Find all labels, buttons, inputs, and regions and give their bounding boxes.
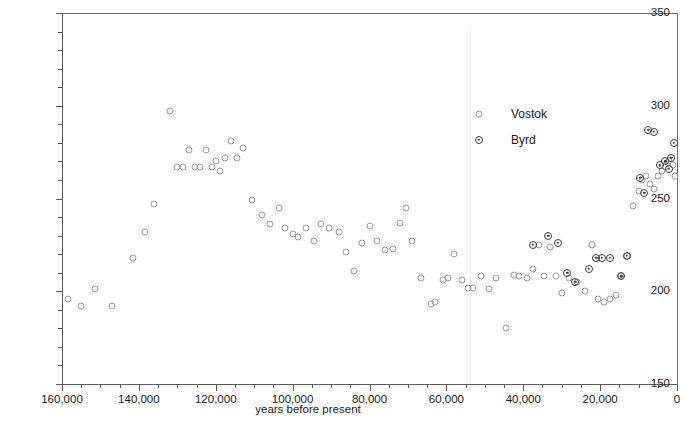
x-tick-minor [542, 384, 543, 388]
data-point-vostok [650, 186, 657, 193]
data-point-vostok [366, 223, 373, 230]
data-point-vostok [216, 167, 223, 174]
x-tick-major [370, 384, 371, 391]
y-tick-label: 300 [651, 100, 670, 112]
data-point-vostok [672, 173, 679, 180]
data-point-vostok [258, 212, 265, 219]
y-tick-minor [58, 365, 62, 366]
data-point-vostok [276, 204, 283, 211]
x-tick-minor [504, 384, 505, 388]
data-point-vostok [541, 273, 548, 280]
x-tick-minor [254, 384, 255, 388]
x-tick-major [523, 384, 524, 391]
data-point-vostok [358, 240, 365, 247]
data-point-vostok [185, 147, 192, 154]
data-point-vostok [212, 158, 219, 165]
data-point-vostok [64, 295, 71, 302]
plot-frame-right [677, 13, 678, 385]
data-point-byrd [571, 278, 579, 286]
data-point-byrd [544, 232, 552, 240]
x-tick-minor [120, 384, 121, 388]
data-point-vostok [477, 273, 484, 280]
x-tick-major [62, 384, 63, 391]
data-point-vostok [516, 273, 523, 280]
data-point-vostok [351, 267, 358, 274]
data-point-vostok [408, 238, 415, 245]
data-point-byrd [554, 239, 562, 247]
legend-marker-vostok [476, 111, 483, 118]
data-point-vostok [166, 108, 173, 115]
data-point-vostok [374, 238, 381, 245]
legend-label: Byrd [511, 133, 536, 147]
data-point-vostok [78, 303, 85, 310]
x-tick-minor [562, 384, 563, 388]
data-point-byrd [529, 241, 537, 249]
data-point-byrd [563, 269, 571, 277]
legend-marker-byrd [475, 136, 483, 144]
x-axis-title: years before present [0, 403, 616, 415]
data-point-vostok [266, 221, 273, 228]
x-tick-minor [177, 384, 178, 388]
scan-artifact-line [470, 27, 471, 387]
data-point-vostok [295, 234, 302, 241]
data-point-vostok [458, 277, 465, 284]
x-tick-minor [485, 384, 486, 388]
data-point-vostok [529, 265, 536, 272]
data-point-vostok [502, 325, 509, 332]
data-point-vostok [249, 197, 256, 204]
x-tick-minor [235, 384, 236, 388]
data-point-vostok [418, 275, 425, 282]
data-point-vostok [281, 225, 288, 232]
y-tick-minor [58, 69, 62, 70]
plot-area: 150200250300350 160,000140,000120,000100… [62, 13, 678, 385]
y-tick-minor [58, 236, 62, 237]
data-point-vostok [335, 228, 342, 235]
x-tick-major [446, 384, 447, 391]
data-point-vostok [397, 219, 404, 226]
data-point-byrd [585, 265, 593, 273]
data-point-vostok [203, 147, 210, 154]
data-point-byrd [670, 139, 678, 147]
data-point-vostok [239, 145, 246, 152]
x-tick-minor [466, 384, 467, 388]
x-tick-minor [619, 384, 620, 388]
y-tick-minor [58, 328, 62, 329]
y-tick-minor [58, 124, 62, 125]
legend-label: Vostok [511, 107, 547, 121]
y-tick-minor [58, 32, 62, 33]
y-tick-minor [58, 254, 62, 255]
data-point-vostok [108, 303, 115, 310]
y-tick-minor [58, 161, 62, 162]
x-tick-major [677, 384, 678, 391]
x-tick-minor [331, 384, 332, 388]
data-point-vostok [222, 154, 229, 161]
data-point-vostok [343, 249, 350, 256]
x-tick-minor [273, 384, 274, 388]
x-tick-label: 0 [674, 394, 680, 406]
x-tick-major [293, 384, 294, 391]
x-tick-minor [658, 384, 659, 388]
data-point-vostok [91, 286, 98, 293]
data-point-vostok [326, 225, 333, 232]
data-point-vostok [389, 245, 396, 252]
data-point-vostok [310, 238, 317, 245]
x-tick-minor [312, 384, 313, 388]
data-point-vostok [612, 291, 619, 298]
data-point-vostok [197, 163, 204, 170]
data-point-vostok [318, 221, 325, 228]
data-point-vostok [228, 137, 235, 144]
y-tick-major [56, 291, 62, 292]
data-point-byrd [640, 189, 648, 197]
y-tick-minor [58, 347, 62, 348]
data-point-vostok [552, 273, 559, 280]
y-tick-label: 200 [651, 285, 670, 297]
x-tick-minor [350, 384, 351, 388]
x-tick-major [139, 384, 140, 391]
y-tick-minor [58, 87, 62, 88]
y-tick-minor [58, 50, 62, 51]
x-tick-minor [427, 384, 428, 388]
x-tick-minor [158, 384, 159, 388]
data-point-vostok [524, 275, 531, 282]
data-point-vostok [141, 228, 148, 235]
data-point-vostok [493, 275, 500, 282]
